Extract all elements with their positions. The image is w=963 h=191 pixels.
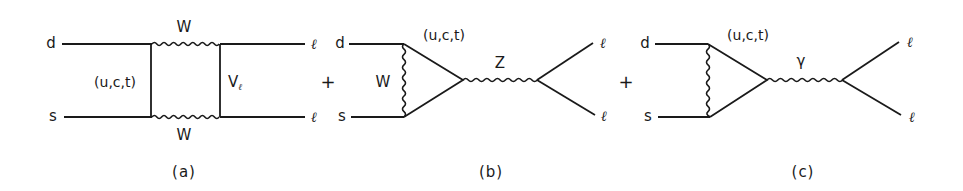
- label-lepton-top-a: ℓ: [311, 37, 317, 51]
- label-w-bottom-a: W: [177, 128, 192, 143]
- label-z-boson: Z: [495, 56, 505, 71]
- label-d-b: d: [335, 36, 345, 51]
- caption-a: (a): [172, 165, 196, 180]
- label-quarks-a: (u,c,t): [94, 75, 136, 89]
- quark-loop-b: [404, 44, 463, 117]
- caption-b: (b): [479, 165, 503, 180]
- feynman-diagram-figure: d s W W (u,c,t) Vℓ ℓ ℓ (a) + d s W (u,c,…: [0, 0, 963, 191]
- label-w-top-a: W: [177, 20, 192, 35]
- label-lepton-top-b: ℓ: [600, 36, 606, 50]
- label-quarks-b: (u,c,t): [423, 28, 465, 42]
- label-lepton-bottom-a: ℓ: [311, 110, 317, 124]
- neutrino-subscript: ℓ: [238, 82, 242, 92]
- plus-sign-1: +: [320, 73, 335, 91]
- label-d-c: d: [640, 36, 650, 51]
- quark-loop-c: [708, 44, 767, 117]
- label-w-b: W: [376, 75, 391, 90]
- w-boson-vertical-b: [403, 44, 406, 117]
- lepton-out-bottom-c: [842, 80, 901, 115]
- label-s-a: s: [49, 109, 57, 124]
- label-lepton-top-c: ℓ: [907, 35, 913, 49]
- lepton-out-top-b: [537, 43, 593, 80]
- label-photon: γ: [797, 54, 806, 69]
- label-d-a: d: [46, 36, 56, 51]
- lepton-out-bottom-b: [537, 80, 595, 115]
- neutrino-symbol: V: [228, 73, 238, 91]
- label-s-c: s: [644, 109, 652, 124]
- z-boson-propagator: [463, 79, 537, 82]
- w-boson-bottom-a: [152, 116, 219, 119]
- lepton-out-top-c: [842, 42, 899, 80]
- plus-sign-2: +: [618, 73, 633, 91]
- label-quarks-c: (u,c,t): [727, 28, 769, 42]
- photon-propagator: [767, 79, 843, 82]
- w-boson-vertical-c: [707, 44, 711, 117]
- caption-c: (c): [792, 165, 815, 180]
- w-boson-top-a: [152, 43, 219, 46]
- label-neutrino-a: Vℓ: [228, 75, 242, 92]
- label-lepton-bottom-b: ℓ: [601, 109, 607, 123]
- label-s-b: s: [338, 109, 346, 124]
- label-lepton-bottom-c: ℓ: [909, 110, 915, 124]
- panel-c-lines: [655, 42, 901, 117]
